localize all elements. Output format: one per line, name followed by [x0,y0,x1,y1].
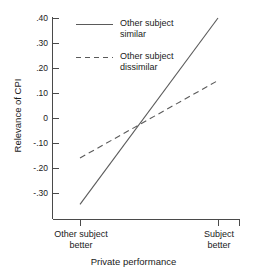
x-tick-label-subject-better-line1: Subject [176,229,262,240]
y-tick-label: -.30 [22,188,48,198]
legend-label-dissimilar-line1: Other subject [120,51,210,62]
x-tick-label-other-subject-better-line2: better [38,240,124,251]
x-axis-title: Private performance [0,256,267,267]
x-tick-label-other-subject-better-line1: Other subject [38,229,124,240]
x-tick-label-subject-better-line2: better [176,240,262,251]
chart-figure: .40 .30 .20 .10 0 -.10 -.20 -.30 Other s… [0,0,267,275]
series-line-other-subject-similar [80,18,218,204]
y-axis-title: Relevance of CPI [12,61,23,171]
y-tick-label: .20 [22,63,48,73]
y-tick-label: 0 [22,113,48,123]
legend-label-similar-line2: similar [120,29,210,40]
y-tick-label: .40 [22,13,48,23]
y-tick-label: .10 [22,88,48,98]
y-tick-label: .30 [22,38,48,48]
legend-label-similar-line1: Other subject [120,18,210,29]
series-line-other-subject-dissimilar [80,81,218,159]
legend-label-dissimilar-line2: dissimilar [120,62,210,73]
y-tick-label: -.20 [22,163,48,173]
y-tick-label: -.10 [22,138,48,148]
